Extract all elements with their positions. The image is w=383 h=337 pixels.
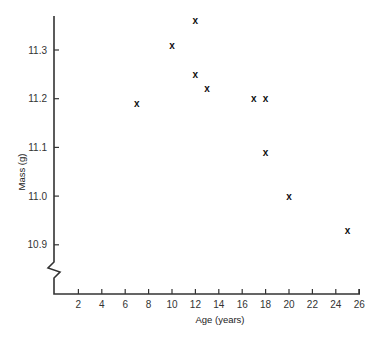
x-marker-icon: x xyxy=(204,83,210,94)
x-tick-label: 2 xyxy=(76,299,82,310)
x-marker-icon: x xyxy=(134,98,140,109)
x-marker-icon: x xyxy=(263,93,269,104)
x-tick-label: 8 xyxy=(146,299,152,310)
x-tick-label: 20 xyxy=(283,299,295,310)
y-tick-label: 11.2 xyxy=(28,93,47,104)
x-tick-label: 24 xyxy=(330,299,342,310)
scatter-chart: 10.911.011.111.211.324681012141618202224… xyxy=(0,0,383,337)
x-marker-icon: x xyxy=(345,225,351,236)
y-tick-label: 10.9 xyxy=(28,239,48,250)
x-marker-icon: x xyxy=(169,40,175,51)
x-tick-label: 6 xyxy=(122,299,128,310)
x-marker-icon: x xyxy=(193,69,199,80)
x-marker-icon: x xyxy=(263,147,269,158)
x-tick-label: 10 xyxy=(166,299,178,310)
x-tick-label: 12 xyxy=(190,299,202,310)
x-marker-icon: x xyxy=(286,191,292,202)
x-tick-label: 14 xyxy=(213,299,225,310)
x-tick-label: 16 xyxy=(237,299,249,310)
y-axis-label: Mass (g) xyxy=(16,154,27,191)
axis-lines xyxy=(48,16,359,294)
data-points: xxxxxxxxxx xyxy=(134,15,351,235)
x-marker-icon: x xyxy=(193,15,199,26)
x-marker-icon: x xyxy=(251,93,257,104)
x-axis-label: Age (years) xyxy=(195,314,244,325)
x-tick-label: 22 xyxy=(307,299,319,310)
ticks: 10.911.011.111.211.324681012141618202224… xyxy=(28,45,366,311)
y-tick-label: 11.1 xyxy=(28,142,47,153)
y-tick-label: 11.0 xyxy=(28,191,47,202)
axes xyxy=(48,16,359,294)
x-tick-label: 26 xyxy=(354,299,366,310)
x-tick-label: 18 xyxy=(260,299,272,310)
x-tick-label: 4 xyxy=(99,299,105,310)
y-tick-label: 11.3 xyxy=(28,45,47,56)
